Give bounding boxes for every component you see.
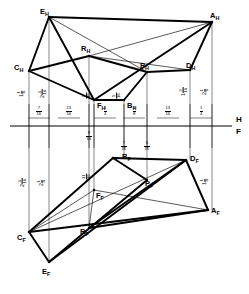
point-dot-A_H	[211, 21, 214, 24]
dim-fraction: 716	[36, 106, 42, 115]
point-dot-R_H	[88, 55, 91, 58]
dim-denominator: 8	[133, 111, 136, 116]
point-label-F_F: FF	[96, 192, 104, 200]
edge-f-R_F-F_F	[89, 190, 94, 228]
dim-fraction: 1116	[82, 173, 91, 179]
edge-h-A_H-R_H	[89, 22, 212, 56]
point-dot-P_H	[146, 71, 149, 74]
dim-P-to-A: 14	[200, 107, 203, 116]
point-label-D_F: DF	[190, 155, 199, 163]
point-label-C_F: CF	[17, 234, 26, 242]
point-label-R_H: RH	[81, 45, 90, 53]
dim-denominator: 16	[36, 111, 42, 116]
dim-D-height: 1916	[178, 87, 187, 96]
fold-line-label-h: H	[236, 115, 242, 124]
point-dot-E_F	[48, 261, 51, 264]
edge-h-R_H-P_H	[89, 56, 147, 72]
dim-fraction: 1316	[66, 106, 72, 115]
dim-fraction: 14	[200, 106, 203, 115]
dim-fraction: 14	[104, 106, 107, 115]
dim-fraction: 18	[133, 106, 136, 115]
dim-fraction: 1316	[165, 106, 171, 115]
dim-E-depth: 218	[37, 179, 46, 185]
dim-numerator: 1	[104, 106, 107, 110]
dim-fraction: 18	[200, 178, 209, 181]
point-subscript: H	[19, 67, 23, 73]
dim-denominator: 16	[66, 111, 72, 116]
point-dot-F_F	[93, 189, 96, 192]
dim-C-depth: 2316	[17, 178, 26, 187]
dim-denominator: 16	[21, 178, 26, 184]
point-markers	[28, 16, 214, 264]
point-label-A_H: AH	[210, 12, 219, 20]
dim-fraction: 316	[17, 178, 26, 184]
edge-h-E_H-A_H	[49, 17, 212, 22]
dim-C-height: 118	[17, 90, 26, 96]
point-label-P_H: PH	[140, 62, 149, 70]
edge-f-C_F-E_F	[29, 232, 49, 262]
point-subscript: F	[101, 195, 104, 201]
fold-line-label-f: F	[236, 127, 241, 136]
dim-fraction: 18	[37, 179, 46, 182]
dim-denominator: 8	[21, 90, 26, 93]
dim-numerator: 1	[200, 106, 203, 110]
dim-below-P: 516	[144, 142, 150, 151]
dim-E-to-R: 1316	[66, 107, 72, 116]
edge-h-P_H-D_H	[147, 70, 190, 72]
dim-numerator: 1	[133, 106, 136, 110]
point-subscript: F	[195, 158, 198, 164]
point-label-B_F: BF	[122, 153, 131, 161]
point-subscript: F	[216, 210, 219, 216]
point-dot-B_F	[112, 157, 115, 160]
dim-fraction: 18	[200, 88, 209, 91]
dim-fraction: 316	[37, 89, 46, 95]
point-letter: F	[96, 191, 101, 200]
dim-numerator: 13	[165, 106, 171, 110]
dim-denominator: 16	[165, 111, 171, 116]
edge-f-E_F-D_F	[49, 160, 186, 262]
dim-F-height: 916	[82, 92, 91, 98]
dim-denominator: 16	[121, 146, 127, 151]
point-subscript: H	[45, 11, 49, 17]
edge-h-E_H-C_H	[29, 17, 49, 71]
dim-denominator: 8	[41, 179, 46, 182]
dim-E-height: 2316	[37, 89, 46, 98]
dim-fraction: 516	[144, 141, 150, 150]
dim-fraction: 916	[86, 131, 92, 140]
dim-denominator: 16	[86, 173, 91, 179]
dim-F-depth: 1116	[82, 173, 91, 179]
dim-F-to-B: 18	[133, 107, 136, 116]
dim-denominator: 16	[41, 89, 46, 95]
point-dot-B_H	[123, 99, 126, 102]
dim-fraction: 516	[112, 92, 121, 98]
point-label-E_H: EH	[40, 8, 49, 16]
point-subscript: F	[22, 237, 25, 243]
projector-lines	[29, 17, 212, 262]
dim-denominator: 16	[86, 92, 91, 98]
point-subscript: H	[191, 65, 195, 71]
frontal-view-edges	[29, 158, 208, 262]
dim-fraction: 916	[178, 87, 187, 93]
dim-numerator: 13	[66, 106, 72, 110]
dim-B-to-P: 1316	[165, 107, 171, 116]
dim-below-R: 916	[86, 132, 92, 141]
dim-B-height: 516	[112, 92, 121, 98]
point-subscript: F	[47, 271, 50, 277]
point-label-C_H: CH	[14, 64, 23, 72]
point-subscript: H	[86, 48, 90, 54]
dim-denominator: 8	[204, 178, 209, 181]
edge-h-P_H-B_H	[124, 72, 147, 100]
dim-denominator: 4	[200, 111, 203, 116]
point-label-R_F: RF	[80, 228, 89, 236]
dim-numerator: 3	[17, 178, 21, 184]
point-subscript: F	[150, 183, 153, 189]
point-subscript: H	[215, 15, 219, 21]
edge-h-C_H-R_H	[29, 56, 89, 71]
point-subscript: F	[85, 231, 88, 237]
dim-denominator: 4	[104, 111, 107, 116]
dim-fraction: 916	[82, 92, 91, 98]
drawing-canvas: EHAHRHCHPHDHFHBH BFDFPFFFAFRFCFEF 716131…	[0, 0, 249, 294]
dim-A-depth: 118	[200, 178, 209, 184]
edge-f-F_F-A_F	[94, 190, 208, 210]
edge-f-D_F-A_F	[186, 160, 208, 210]
